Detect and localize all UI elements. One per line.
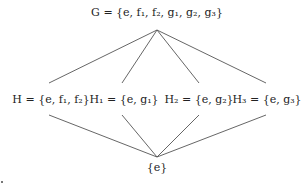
- edge-G-H: [49, 30, 157, 83]
- node-eq-H1: =: [107, 93, 116, 106]
- edge-G-H1: [122, 30, 157, 83]
- node-name-G: G: [91, 6, 100, 19]
- edge-H2-trivial: [157, 115, 199, 157]
- node-elements-trivial: {e}: [147, 161, 168, 174]
- corner-artifact: [1, 181, 3, 183]
- node-label-H: H = {e, f₁, f₂}: [12, 94, 89, 106]
- node-eq-H: =: [25, 93, 34, 106]
- node-label-G: G = {e, f₁, f₂, g₁, g₂, g₃}: [91, 7, 223, 19]
- node-label-H1: H₁ = {e, g₁}: [89, 94, 158, 106]
- node-elements-H: {e, f₁, f₂}: [38, 93, 89, 106]
- node-label-H2: H₂ = {e, g₂}: [164, 94, 233, 106]
- node-name-H2: H₂: [164, 93, 178, 106]
- lattice-diagram: [0, 0, 305, 184]
- edge-G-H2: [157, 30, 199, 83]
- node-elements-G: {e, f₁, f₂, g₁, g₂, g₃}: [116, 6, 223, 19]
- node-label-H3: H₃ = {e, g₃}: [232, 94, 301, 106]
- edge-H-trivial: [49, 115, 157, 157]
- node-eq-G: =: [103, 6, 112, 19]
- node-name-H1: H₁: [89, 93, 103, 106]
- node-elements-H2: {e, g₂}: [195, 93, 234, 106]
- node-label-trivial: {e}: [147, 162, 168, 174]
- node-elements-H3: {e, g₃}: [263, 93, 302, 106]
- edge-H1-trivial: [122, 115, 157, 157]
- node-elements-H1: {e, g₁}: [120, 93, 159, 106]
- edge-H3-trivial: [157, 115, 266, 157]
- edge-G-H3: [157, 30, 266, 83]
- node-eq-H2: =: [182, 93, 191, 106]
- node-name-H3: H₃: [232, 93, 246, 106]
- node-eq-H3: =: [250, 93, 259, 106]
- node-name-H: H: [12, 93, 22, 106]
